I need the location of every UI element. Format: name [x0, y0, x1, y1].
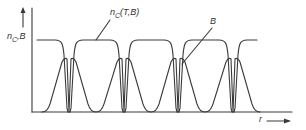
nc-curve-label: nC(T,B) [110, 8, 139, 19]
b-curve-label: B [210, 17, 216, 26]
x-axis-label: r [259, 115, 262, 124]
b-leader-line [182, 28, 212, 64]
nc-leader-line [96, 20, 110, 40]
y-axis-label: nC,B [7, 32, 26, 43]
diagram-canvas [0, 0, 306, 130]
b-curve [42, 58, 260, 112]
